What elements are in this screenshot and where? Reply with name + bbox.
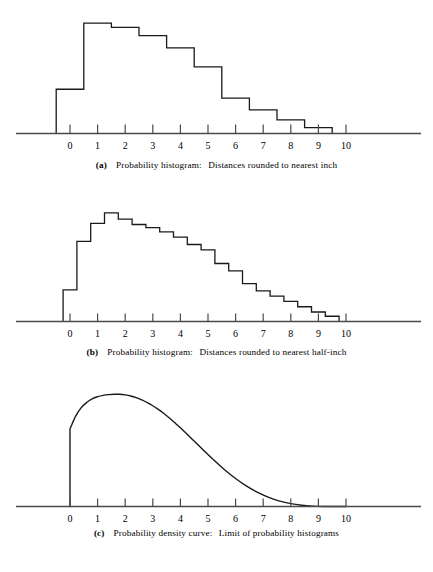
histogram-a-bars: [56, 23, 332, 133]
x-tick-label: 3: [150, 140, 155, 151]
caption-a: (a)Probability histogram: Distances roun…: [0, 160, 433, 170]
histogram-nearest-inch-plot: 012345678910: [0, 0, 433, 158]
x-tick-label: 0: [68, 513, 73, 524]
x-tick-label: 4: [178, 140, 183, 151]
x-tick-label: 1: [95, 328, 100, 339]
caption-a-text1: Probability histogram:: [116, 160, 202, 170]
caption-b-text2: Distances rounded to nearest half-inch: [199, 347, 346, 357]
x-tick-label: 4: [178, 328, 183, 339]
x-tick-label: 1: [95, 140, 100, 151]
histogram-a-svg: 012345678910: [0, 0, 433, 158]
x-tick-label: 9: [316, 140, 321, 151]
x-tick-label: 2: [123, 140, 128, 151]
histogram-b-bars: [63, 213, 339, 322]
histogram-b-svg: 012345678910: [0, 190, 433, 345]
caption-b-text1: Probability histogram:: [107, 347, 193, 357]
caption-c-text2: Limit of probability histograms: [219, 528, 339, 538]
x-tick-label: 10: [341, 328, 351, 339]
x-tick-label: 6: [233, 140, 238, 151]
histogram-outline: [56, 23, 332, 133]
caption-b: (b)Probability histogram: Distances roun…: [0, 347, 433, 357]
x-tick-label: 2: [123, 513, 128, 524]
x-tick-label: 10: [341, 140, 351, 151]
x-axis-tick-labels-c: 012345678910: [68, 513, 352, 524]
caption-b-tag: (b): [87, 347, 99, 357]
x-tick-label: 5: [206, 513, 211, 524]
caption-c: (c)Probability density curve: Limit of p…: [0, 528, 433, 538]
x-axis-ticks-b: [70, 314, 346, 322]
x-tick-label: 9: [316, 513, 321, 524]
x-tick-label: 8: [288, 513, 293, 524]
histogram-nearest-half-inch-plot: 012345678910: [0, 190, 433, 345]
caption-a-text2: Distances rounded to nearest inch: [208, 160, 337, 170]
density-curve-svg: 012345678910: [0, 376, 433, 526]
x-tick-label: 0: [68, 328, 73, 339]
x-tick-label: 10: [341, 513, 351, 524]
x-tick-label: 4: [178, 513, 183, 524]
caption-c-tag: (c): [94, 528, 105, 538]
x-tick-label: 5: [206, 328, 211, 339]
x-tick-label: 1: [95, 513, 100, 524]
x-tick-label: 9: [316, 328, 321, 339]
caption-c-text1: Probability density curve:: [114, 528, 213, 538]
x-tick-label: 8: [288, 140, 293, 151]
figure-panel-a: 012345678910 (a)Probability histogram: D…: [0, 0, 433, 190]
x-tick-label: 6: [233, 513, 238, 524]
x-tick-label: 3: [150, 328, 155, 339]
density-curve-path: [70, 394, 346, 506]
x-tick-label: 3: [150, 513, 155, 524]
figure-panel-b: 012345678910 (b)Probability histogram: D…: [0, 190, 433, 376]
x-tick-label: 7: [261, 328, 266, 339]
x-tick-label: 6: [233, 328, 238, 339]
caption-a-tag: (a): [96, 160, 107, 170]
probability-density-curve-plot: 012345678910: [0, 376, 433, 526]
x-axis-tick-labels-b: 012345678910: [68, 328, 352, 339]
x-axis-tick-labels-a: 012345678910: [68, 140, 352, 151]
histogram-outline: [63, 213, 339, 322]
x-tick-label: 7: [261, 513, 266, 524]
figure-panel-c: 012345678910 (c)Probability density curv…: [0, 376, 433, 572]
x-tick-label: 2: [123, 328, 128, 339]
x-tick-label: 0: [68, 140, 73, 151]
x-tick-label: 8: [288, 328, 293, 339]
x-tick-label: 7: [261, 140, 266, 151]
x-tick-label: 5: [206, 140, 211, 151]
